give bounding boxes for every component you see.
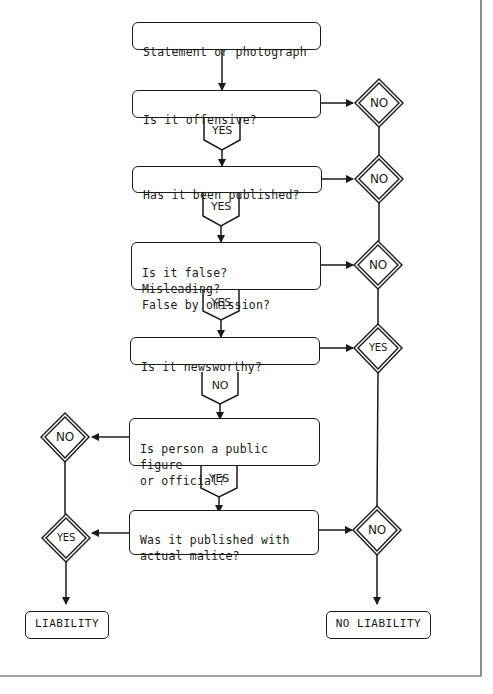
question-label: Is it newsworthy?: [141, 360, 262, 374]
diamond-no-false: NO: [358, 258, 398, 272]
question-box-newsworthy: Is it newsworthy?: [130, 337, 320, 365]
diamond-yes-newsworthy: YES: [358, 342, 398, 353]
question-box-false: Is it false? Misleading? False by omissi…: [131, 242, 321, 290]
question-box-published: Has it been published?: [132, 166, 322, 193]
question-box-offensive: Is it offensive?: [132, 90, 321, 118]
diamond-no-offensive: NO: [359, 96, 399, 110]
question-box-public-figure: Is person a public figure or official?: [129, 418, 320, 466]
tag-yes-public-figure: YES: [201, 472, 237, 485]
tag-no-newsworthy: NO: [202, 379, 238, 392]
diamond-no-malice: NO: [357, 523, 397, 537]
question-box-actual-malice: Was it published with actual malice?: [129, 510, 319, 555]
outcome-no-liability: NO LIABILITY: [326, 611, 431, 639]
start-label: Statement or photograph: [143, 45, 307, 59]
tag-yes-offensive: YES: [204, 124, 240, 137]
outcome-label: NO LIABILITY: [336, 617, 421, 630]
diamond-no-published: NO: [359, 172, 399, 186]
diamond-yes-malice: YES: [46, 532, 86, 543]
tag-yes-published: YES: [203, 200, 239, 213]
diamond-no-public-figure: NO: [45, 430, 85, 444]
flowchart-canvas: Statement or photograph Is it offensive?…: [0, 0, 493, 694]
outcome-liability: LIABILITY: [25, 611, 109, 639]
outcome-label: LIABILITY: [35, 617, 99, 630]
tag-yes-false: YES: [203, 296, 239, 309]
start-box: Statement or photograph: [132, 22, 321, 50]
